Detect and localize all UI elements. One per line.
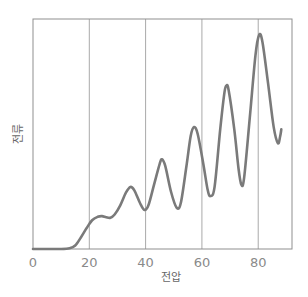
x-tick-label-40: 40 [137, 255, 154, 270]
y-axis-label: 전류 [12, 124, 25, 144]
x-axis-label: 전압 [161, 271, 181, 284]
chart: 020406080 전압 전류 [0, 0, 308, 297]
series-line-current [33, 34, 281, 249]
x-tick-labels: 020406080 [29, 255, 267, 270]
x-tick-label-0: 0 [29, 255, 37, 270]
x-tick-label-20: 20 [81, 255, 98, 270]
plot-frame [33, 19, 292, 249]
x-tick-label-80: 80 [250, 255, 267, 270]
x-tick-label-60: 60 [194, 255, 211, 270]
